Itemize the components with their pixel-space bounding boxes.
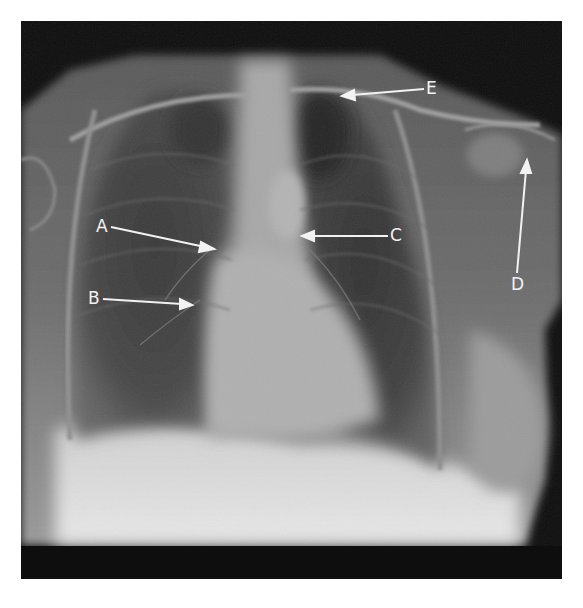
label-e: E xyxy=(426,80,437,97)
label-d: D xyxy=(511,276,524,293)
chest-xray-image xyxy=(21,21,562,579)
label-a: A xyxy=(96,218,108,235)
radiograph-frame xyxy=(21,21,562,579)
label-c: C xyxy=(390,227,402,244)
label-b: B xyxy=(88,290,100,307)
